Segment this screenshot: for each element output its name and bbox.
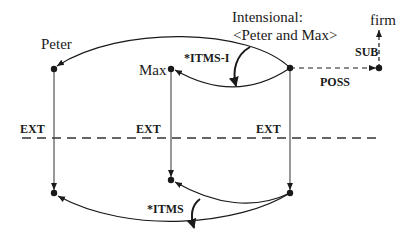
label-max: Max [139,63,167,78]
node-max [168,66,174,72]
itms-i-arrow [235,47,250,86]
label-firm: firm [370,13,396,28]
label-intensional: Intensional: [232,10,303,25]
itms-arrow [192,199,200,228]
edge-lower-to-max [175,182,290,203]
label-itms-i: *ITMS-I [184,52,229,64]
label-ext-intensional: EXT [256,123,281,135]
label-ext-peter: EXT [20,123,45,135]
node-intensional [287,65,293,71]
node-firm [376,65,382,71]
label-intensional-members: <Peter and Max> [233,28,337,43]
label-sub: SUB [355,46,378,58]
label-ext-max: EXT [136,123,161,135]
node-peter [51,66,57,72]
node-peter-ext [51,190,57,196]
edge-intensional-to-max [175,68,290,87]
label-itms: *ITMS [147,203,184,215]
node-max-ext [168,177,174,183]
label-poss: POSS [320,76,350,88]
label-peter: Peter [41,37,72,52]
diagram-canvas: Peter Max Intensional: <Peter and Max> f… [0,0,413,244]
node-intensional-ext [287,190,293,196]
